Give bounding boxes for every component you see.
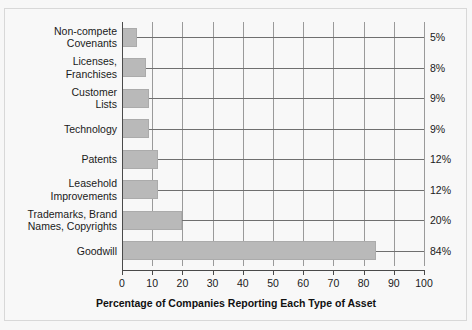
x-tick-label: 90: [379, 277, 409, 290]
y-axis-line: [122, 22, 123, 270]
x-tick: [152, 271, 153, 275]
category-label: Customer Lists: [5, 86, 117, 111]
category-axis-labels: Non-compete CovenantsLicenses, Franchise…: [0, 22, 117, 266]
x-tick: [243, 271, 244, 275]
category-label: Patents: [5, 153, 117, 166]
bar: [122, 180, 158, 199]
x-tick-label: 100: [409, 277, 439, 290]
leader-line: [158, 159, 424, 160]
x-tick-label: 70: [318, 277, 348, 290]
gridline-100: [424, 22, 425, 266]
leader-line: [137, 37, 424, 38]
category-label: Goodwill: [5, 245, 117, 258]
x-tick-label: 20: [167, 277, 197, 290]
x-tick: [364, 271, 365, 275]
category-label: Licenses, Franchises: [5, 55, 117, 80]
gridline-80: [364, 22, 365, 266]
gridline-60: [303, 22, 304, 266]
x-axis-title: Percentage of Companies Reporting Each T…: [0, 297, 472, 309]
x-tick: [182, 271, 183, 275]
value-label: 12%: [430, 153, 451, 165]
leader-line: [146, 68, 424, 69]
x-tick-label: 60: [288, 277, 318, 290]
category-label: Technology: [5, 123, 117, 136]
leader-line: [149, 129, 424, 130]
bar: [122, 241, 376, 260]
x-tick: [333, 271, 334, 275]
bar: [122, 211, 182, 230]
x-tick-label: 50: [258, 277, 288, 290]
x-tick: [424, 271, 425, 275]
category-label: Non-compete Covenants: [5, 25, 117, 50]
category-label: Leasehold Improvements: [5, 177, 117, 202]
bar: [122, 119, 149, 138]
plot-area: [122, 22, 424, 266]
value-label: 9%: [430, 123, 445, 135]
value-label: 20%: [430, 214, 451, 226]
value-label: 5%: [430, 31, 445, 43]
x-tick-label: 40: [228, 277, 258, 290]
bar: [122, 150, 158, 169]
bar: [122, 58, 146, 77]
x-tick-label: 80: [349, 277, 379, 290]
leader-line: [182, 220, 424, 221]
x-tick-label: 0: [107, 277, 137, 290]
gridline-50: [273, 22, 274, 266]
x-tick: [213, 271, 214, 275]
category-label: Trademarks, Brand Names, Copyrights: [5, 208, 117, 233]
value-label: 9%: [430, 92, 445, 104]
x-tick: [122, 271, 123, 275]
gridline-90: [394, 22, 395, 266]
chart-container: Non-compete CovenantsLicenses, Franchise…: [0, 0, 472, 330]
leader-line: [376, 251, 424, 252]
value-label: 84%: [430, 245, 451, 257]
x-tick-label: 10: [137, 277, 167, 290]
x-tick-label: 30: [198, 277, 228, 290]
x-tick: [273, 271, 274, 275]
bar: [122, 28, 137, 47]
value-label: 8%: [430, 62, 445, 74]
leader-line: [158, 190, 424, 191]
gridline-30: [213, 22, 214, 266]
bar: [122, 89, 149, 108]
gridline-40: [243, 22, 244, 266]
x-tick: [303, 271, 304, 275]
value-label: 12%: [430, 184, 451, 196]
leader-line: [149, 98, 424, 99]
gridline-70: [333, 22, 334, 266]
gridline-20: [182, 22, 183, 266]
x-tick: [394, 271, 395, 275]
